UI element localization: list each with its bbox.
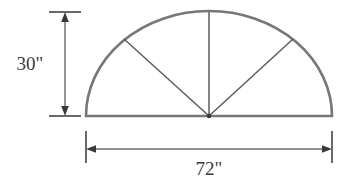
center-point <box>207 114 211 118</box>
radial-line-left <box>124 39 209 116</box>
width-arrowhead-left-icon <box>86 145 96 153</box>
radial-line-right <box>209 39 293 116</box>
radial-divider-lines <box>124 12 293 118</box>
width-dimension-label: 72" <box>196 158 223 179</box>
diagram-canvas: 30" 72" <box>0 0 348 180</box>
height-arrowhead-up-icon <box>61 12 69 22</box>
width-dimension: 72" <box>86 131 332 179</box>
height-arrowhead-down-icon <box>61 106 69 116</box>
width-arrowhead-right-icon <box>322 145 332 153</box>
height-dimension: 30" <box>17 12 81 116</box>
height-dimension-label: 30" <box>17 53 44 74</box>
semicircle-dimension-diagram: 30" 72" <box>0 0 348 180</box>
